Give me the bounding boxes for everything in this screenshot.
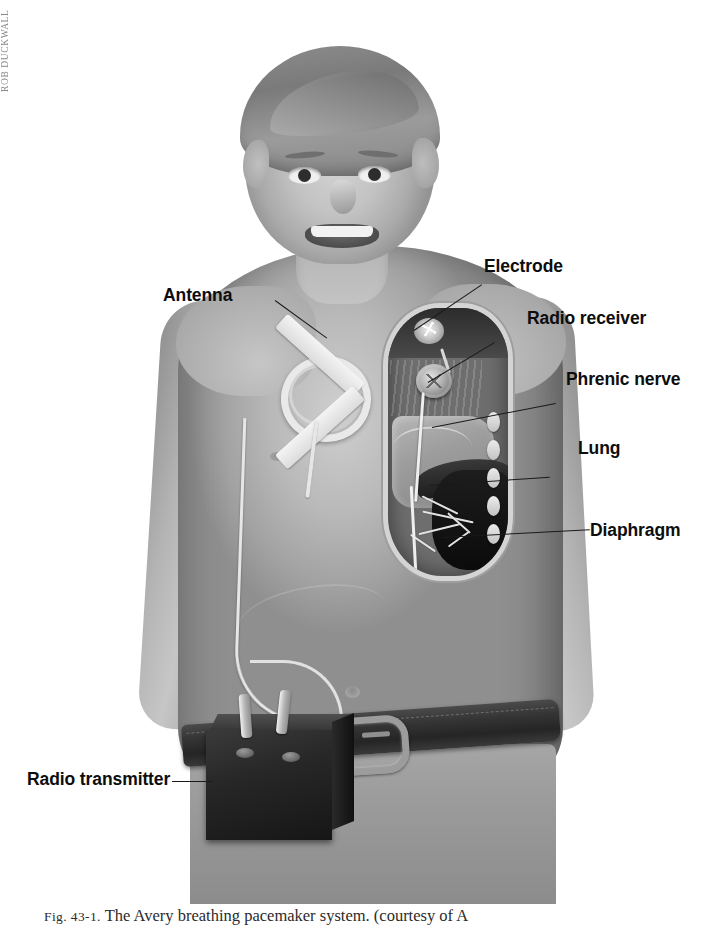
cutaway-upper-shadow <box>388 308 508 358</box>
transmitter-knob <box>236 748 254 758</box>
artist-signature: ROB DUCKWALL <box>0 0 14 92</box>
mouth <box>305 224 379 248</box>
caption-text: The Avery breathing pacemaker system. (c… <box>105 906 468 925</box>
label-radio-receiver: Radio receiver <box>527 310 646 328</box>
leader-line-radio-transmitter <box>172 781 212 782</box>
transmitter-knob <box>282 752 300 762</box>
label-diaphragm: Diaphragm <box>590 522 681 540</box>
left-pupil <box>298 169 311 182</box>
label-lung: Lung <box>578 440 620 458</box>
right-eye <box>358 166 391 183</box>
label-phrenic-nerve: Phrenic nerve <box>566 371 680 389</box>
rib <box>487 468 500 488</box>
right-pupil <box>368 168 381 181</box>
left-eye <box>288 167 321 184</box>
right-ear <box>412 138 439 188</box>
label-electrode: Electrode <box>484 258 563 276</box>
rib <box>487 440 500 460</box>
transmitter-side-face <box>332 713 354 830</box>
label-radio-transmitter: Radio transmitter <box>27 771 170 789</box>
figure-root: ROB DUCKWALL Antenna Electrode Radio rec… <box>0 0 725 935</box>
nose <box>330 180 356 214</box>
caption-number: Fig. 43-1. <box>44 909 101 924</box>
figure-caption: Fig. 43-1. The Avery breathing pacemaker… <box>44 906 684 926</box>
teeth <box>311 226 373 237</box>
left-ear <box>243 140 269 188</box>
label-antenna: Antenna <box>163 287 232 305</box>
rib <box>487 496 500 516</box>
radio-transmitter-box <box>206 730 332 840</box>
navel <box>345 686 360 698</box>
